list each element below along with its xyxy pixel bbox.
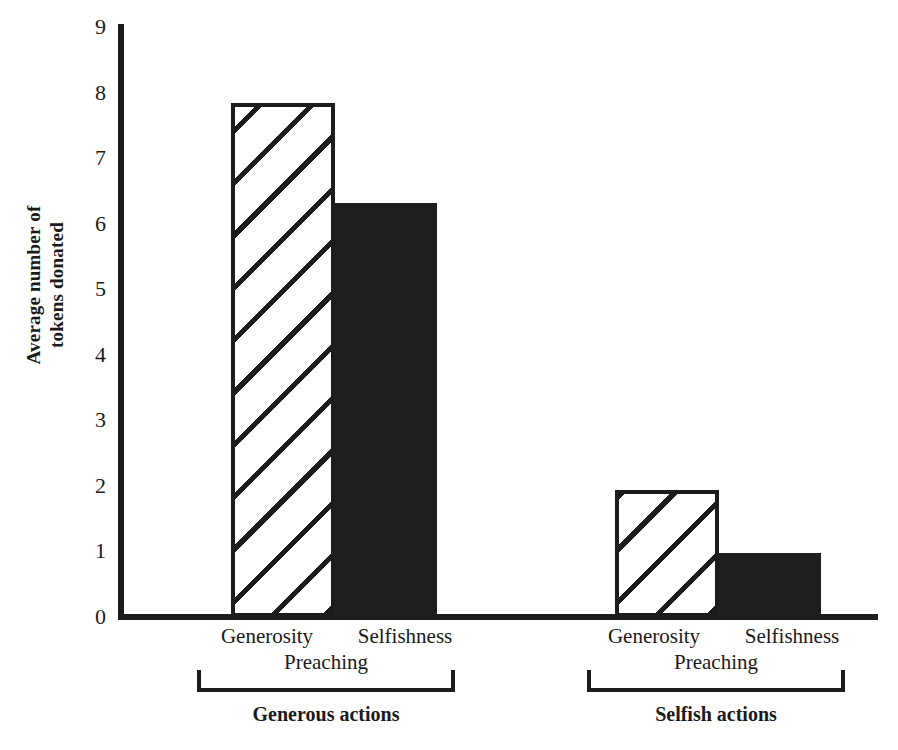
category-label-selfish-selfishness: Selfishness xyxy=(724,624,860,648)
bar-chart: Average number of tokens donated 9 8 7 6… xyxy=(0,0,898,750)
group-title-selfish-actions: Selfish actions xyxy=(587,702,845,726)
group-bracket-left xyxy=(197,670,455,692)
group-title-generous-actions: Generous actions xyxy=(197,702,455,726)
category-label-generous-generosity: Generosity xyxy=(203,624,331,648)
category-label-generous-selfishness: Selfishness xyxy=(337,624,473,648)
category-label-selfish-generosity: Generosity xyxy=(590,624,718,648)
group-bracket-right xyxy=(587,670,845,692)
bar-generous-actions-selfishness xyxy=(334,203,437,617)
bar-selfish-actions-selfishness xyxy=(718,553,821,617)
bar-selfish-actions-generosity xyxy=(615,490,719,617)
bar-generous-actions-generosity xyxy=(231,103,335,617)
